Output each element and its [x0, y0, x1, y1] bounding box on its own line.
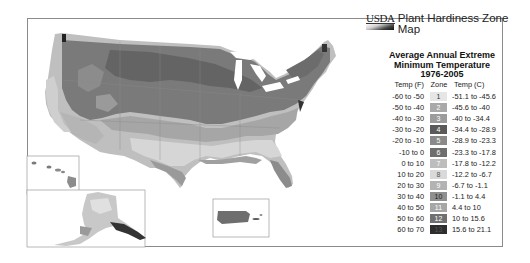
legend-row: 10 to 208-12.2 to -6.7 [386, 169, 504, 180]
zone-legend: Temp (F) Zone Temp (C) -60 to -501-51.1 … [386, 80, 504, 235]
legend-temp-c: -51.1 to -45.6 [450, 92, 496, 101]
legend-temp-f: -10 to 0 [386, 148, 424, 157]
legend-header-fahrenheit: Temp (F) [386, 80, 424, 89]
legend-title-years: 1976-2005 [380, 70, 504, 80]
legend-row: 20 to 309-6.7 to -1.1 [386, 180, 504, 191]
legend-temp-f: -60 to -50 [386, 92, 424, 101]
legend-temp-f: -40 to -30 [386, 114, 424, 123]
usda-logo-text: USDA [366, 13, 395, 24]
usda-swoosh-icon [366, 24, 394, 30]
legend-temp-c: -23.3 to -17.8 [450, 148, 496, 157]
legend-row: 60 to 701315.6 to 21.1 [386, 224, 504, 235]
legend-row: 30 to 4010-1.1 to 4.4 [386, 191, 504, 202]
legend-temp-c: -12.2 to -6.7 [450, 170, 492, 179]
map-title: Plant Hardiness Zone Map [398, 13, 530, 35]
legend-temp-c: 10 to 15.6 [450, 214, 485, 223]
legend-row: -60 to -501-51.1 to -45.6 [386, 91, 504, 102]
legend-title: Average Annual Extreme Minimum Temperatu… [380, 51, 504, 80]
legend-zone-swatch: 2 [430, 103, 447, 112]
legend-temp-c: -34.4 to -28.9 [450, 125, 496, 134]
legend-header-zone: Zone [426, 80, 452, 89]
legend-row: 40 to 50114.4 to 10 [386, 202, 504, 213]
legend-temp-c: -6.7 to -1.1 [450, 181, 488, 190]
legend-temp-c: -40 to -34.4 [450, 114, 490, 123]
legend-row: 0 to 107-17.8 to -12.2 [386, 158, 504, 169]
legend-zone-swatch: 12 [430, 214, 447, 223]
legend-temp-f: 50 to 60 [386, 214, 424, 223]
alaska-inset [27, 190, 146, 247]
legend-temp-f: -30 to -20 [386, 125, 424, 134]
legend-temp-f: 10 to 20 [386, 170, 424, 179]
legend-temp-c: 15.6 to 21.1 [450, 225, 491, 234]
legend-header: Temp (F) Zone Temp (C) [386, 80, 504, 89]
legend-zone-swatch: 3 [430, 114, 447, 123]
legend-temp-f: 60 to 70 [386, 225, 424, 234]
legend-zone-swatch: 13 [430, 225, 447, 234]
map-header: USDA Plant Hardiness Zone Map [366, 13, 530, 35]
legend-row: -40 to -303-40 to -34.4 [386, 113, 504, 124]
legend-zone-swatch: 7 [430, 159, 447, 168]
legend-temp-f: -50 to -40 [386, 103, 424, 112]
legend-temp-c: -1.1 to 4.4 [450, 192, 485, 201]
legend-row: -20 to -105-28.9 to -23.3 [386, 135, 504, 146]
legend-zone-swatch: 4 [430, 125, 447, 134]
legend-temp-c: -28.9 to -23.3 [450, 136, 496, 145]
legend-temp-f: 0 to 10 [386, 159, 424, 168]
puerto-rico-inset [213, 199, 269, 237]
legend-zone-swatch: 6 [430, 148, 447, 157]
legend-temp-f: 30 to 40 [386, 192, 424, 201]
legend-row: -50 to -402-45.6 to -40 [386, 102, 504, 113]
legend-temp-c: -17.8 to -12.2 [450, 159, 496, 168]
legend-zone-swatch: 11 [430, 203, 447, 212]
legend-zone-swatch: 5 [430, 136, 447, 145]
legend-zone-swatch: 10 [430, 192, 447, 201]
usda-logo: USDA [366, 13, 395, 24]
legend-zone-swatch: 8 [430, 170, 447, 179]
legend-row: 50 to 601210 to 15.6 [386, 213, 504, 224]
legend-temp-f: -20 to -10 [386, 136, 424, 145]
hawaii-inset [27, 156, 79, 194]
legend-zone-swatch: 1 [430, 92, 447, 101]
legend-zone-swatch: 9 [430, 181, 447, 190]
legend-row: -30 to -204-34.4 to -28.9 [386, 124, 504, 135]
legend-temp-f: 40 to 50 [386, 203, 424, 212]
legend-row: -10 to 06-23.3 to -17.8 [386, 146, 504, 157]
legend-temp-c: 4.4 to 10 [450, 203, 481, 212]
legend-temp-c: -45.6 to -40 [450, 103, 490, 112]
legend-temp-f: 20 to 30 [386, 181, 424, 190]
legend-header-celsius: Temp (C) [452, 80, 504, 89]
contiguous-us-map [45, 33, 336, 188]
